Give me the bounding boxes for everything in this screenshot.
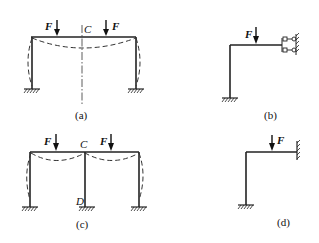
load-label: F <box>111 20 120 32</box>
point-label-c: C <box>84 23 92 35</box>
load-label: F <box>99 135 108 147</box>
deflected-shape-a <box>28 38 140 86</box>
load-label: F <box>276 134 285 146</box>
load-label: F <box>43 135 52 147</box>
load-label: F <box>244 28 253 40</box>
fixed-support-icon <box>128 89 144 93</box>
fixed-support-icon <box>79 207 95 211</box>
panel-b: F (b) <box>222 27 299 122</box>
guided-support-icon <box>282 33 299 55</box>
panel-d: F (d) <box>238 134 300 229</box>
panel-c: F F C D (c) <box>22 134 147 231</box>
fixed-support-icon <box>131 207 147 211</box>
load-arrow-icon <box>54 20 60 36</box>
fixed-support-icon <box>222 98 238 102</box>
fixed-support-icon <box>24 89 40 93</box>
point-label-c: C <box>80 138 88 150</box>
caption-c: (c) <box>76 218 89 231</box>
load-arrow-icon <box>269 135 275 151</box>
fixed-support-icon <box>238 205 254 209</box>
load-arrow-icon <box>108 134 114 151</box>
caption-b: (b) <box>264 109 277 122</box>
point-label-d: D <box>75 195 84 207</box>
panel-a: F F C (a) <box>24 20 144 122</box>
fixed-wall-support-icon <box>297 140 300 160</box>
caption-d: (d) <box>277 216 290 229</box>
fixed-support-icon <box>22 207 38 211</box>
load-arrow-icon <box>53 134 59 151</box>
load-label: F <box>44 20 53 32</box>
load-arrow-icon <box>103 20 109 36</box>
load-arrow-icon <box>253 27 259 44</box>
caption-a: (a) <box>75 109 88 122</box>
structural-frames-figure: F F C (a) <box>0 0 319 243</box>
